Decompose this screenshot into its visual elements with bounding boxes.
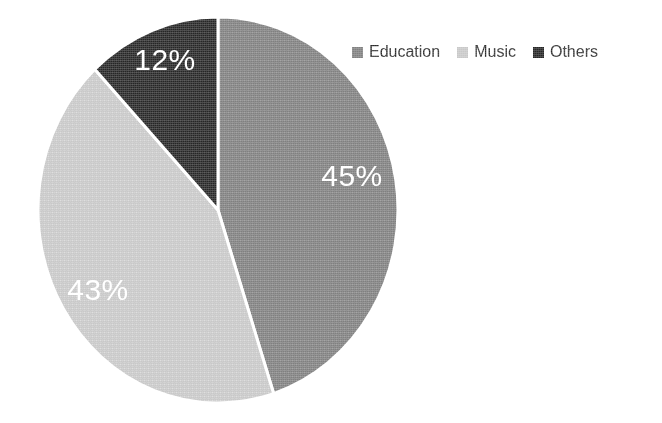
- pie-plot-area: 45% 43% 12%: [0, 0, 440, 423]
- legend-swatch-others: [533, 47, 544, 58]
- legend-label-education: Education: [369, 44, 440, 60]
- pie-svg: 45% 43% 12%: [0, 0, 440, 423]
- legend-item-others[interactable]: Others: [533, 44, 598, 60]
- pie-data-label-education: 45%: [321, 159, 383, 192]
- legend-item-education[interactable]: Education: [352, 44, 440, 60]
- legend-item-music[interactable]: Music: [457, 44, 516, 60]
- chart-legend: Education Music Others: [352, 44, 598, 60]
- pie-slice-group: [38, 17, 398, 403]
- pie-chart: 45% 43% 12% Education Music Others: [0, 0, 662, 423]
- pie-data-label-music: 43%: [67, 273, 129, 306]
- pie-data-label-others: 12%: [134, 43, 196, 76]
- legend-swatch-music: [457, 47, 468, 58]
- legend-label-others: Others: [550, 44, 598, 60]
- legend-label-music: Music: [474, 44, 516, 60]
- legend-swatch-education: [352, 47, 363, 58]
